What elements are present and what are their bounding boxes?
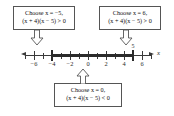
- inequality-number-line-figure: Choose x = −5, (x + 4)(x − 5) > 0 Choose…: [0, 0, 174, 116]
- callout-left-line1: Choose x = −5,: [17, 9, 71, 16]
- axis-tick-label: 6: [140, 60, 143, 67]
- number-line: x −6−4−20246 5: [0, 44, 174, 74]
- callout-mid-line1: Choose x = 0,: [58, 86, 118, 93]
- axis-tick-label: 4: [122, 60, 125, 67]
- axis-tick: [142, 51, 143, 60]
- axis-tick-label: 2: [104, 60, 107, 67]
- band-endpoint-label: 5: [132, 43, 135, 49]
- axis-tick: [34, 51, 35, 60]
- axis-tick: [43, 53, 44, 59]
- solution-band: [52, 54, 133, 57]
- callout-box-left: Choose x = −5, (x + 4)(x − 5) > 0: [13, 6, 75, 30]
- axis-tick-label: −2: [67, 60, 74, 67]
- callout-mid-line2: (x + 4)(x − 5) < 0: [58, 94, 118, 101]
- callout-box-middle: Choose x = 0, (x + 4)(x − 5) < 0: [54, 83, 122, 107]
- callout-left-line2: (x + 4)(x − 5) > 0: [17, 17, 71, 24]
- callout-box-right: Choose x = 6, (x + 4)(x − 5) > 0: [99, 6, 161, 30]
- axis-tick-label: −4: [49, 60, 56, 67]
- callout-right-line2: (x + 4)(x − 5) > 0: [103, 17, 157, 24]
- band-endpoint: [132, 50, 135, 61]
- axis-tick-label: 0: [86, 60, 89, 67]
- callout-right-line1: Choose x = 6,: [103, 9, 157, 16]
- axis-variable-label: x: [157, 49, 160, 56]
- axis-tick: [25, 53, 26, 59]
- axis-tick-label: −6: [31, 60, 38, 67]
- axis-tick: [151, 53, 152, 59]
- band-endpoint: [51, 50, 54, 61]
